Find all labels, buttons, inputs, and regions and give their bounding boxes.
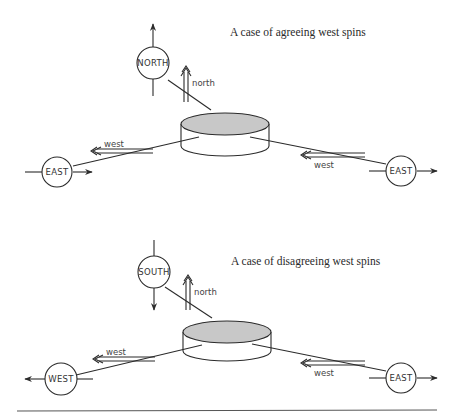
spin-label-left: west xyxy=(104,139,125,149)
double-arrow-icon xyxy=(181,66,191,102)
panel-caption: A case of disagreeing west spins xyxy=(231,255,381,268)
source-disc xyxy=(183,321,271,361)
spin-label-top: north xyxy=(194,287,217,297)
detector-label: EAST xyxy=(46,167,69,177)
beam-to-right xyxy=(252,344,386,371)
detector-right: EAST xyxy=(369,156,437,186)
panel-agreeing: A case of agreeing west spins north west xyxy=(25,24,437,187)
detector-label: WEST xyxy=(48,374,74,384)
detector-label: SOUTH xyxy=(138,267,169,277)
detector-right: EAST xyxy=(369,363,437,393)
detector-label: EAST xyxy=(390,373,413,383)
detector-left: WEST xyxy=(25,363,93,395)
spin-label-top: north xyxy=(192,78,215,88)
detector-left: EAST xyxy=(25,157,92,187)
spin-label-right: west xyxy=(314,160,335,170)
source-disc xyxy=(181,113,269,156)
detector-top: SOUTH xyxy=(138,240,170,310)
detector-top: NORTH xyxy=(137,24,169,96)
detector-label: NORTH xyxy=(137,58,168,68)
panel-disagreeing: A case of disagreeing west spins north w… xyxy=(25,240,437,395)
spin-diagram: A case of agreeing west spins north west xyxy=(0,0,459,418)
bottom-divider xyxy=(17,410,437,411)
panel-caption: A case of agreeing west spins xyxy=(230,26,366,39)
spin-label-right: west xyxy=(314,368,335,378)
spin-label-left: west xyxy=(106,347,127,357)
detector-label: EAST xyxy=(390,166,413,176)
